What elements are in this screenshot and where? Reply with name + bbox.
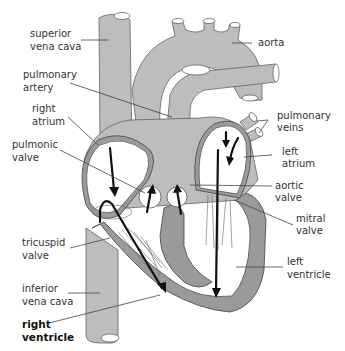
label-tricuspid-valve: tricuspid valve (22, 237, 65, 261)
mitral-valve-cords (206, 195, 232, 250)
label-text: ventricle (287, 269, 331, 280)
label-inferior-vena-cava: inferior vena cava (22, 283, 73, 307)
label-text: veins (277, 122, 303, 133)
label-pulmonary-artery: pulmonary artery (23, 69, 77, 93)
label-mitral-valve: mitral valve (296, 213, 325, 236)
label-text: vena cava (30, 41, 81, 52)
label-text: valve (12, 152, 39, 163)
label-left-atrium: left atrium (282, 146, 315, 169)
label-text: left (282, 146, 298, 157)
label-text: right (32, 103, 56, 114)
label-text: atrium (282, 158, 315, 169)
label-text: aortic (275, 180, 304, 191)
heart-diagram: superior vena cava aorta pulmonary arter… (0, 0, 345, 351)
label-text: pulmonic (12, 139, 58, 150)
label-superior-vena-cava: superior vena cava (30, 28, 81, 52)
label-text: pulmonary (277, 110, 331, 121)
label-text: right (22, 318, 51, 330)
label-text: ventricle (22, 331, 74, 343)
label-pulmonic-valve: pulmonic valve (12, 139, 58, 163)
label-text: valve (296, 225, 323, 236)
label-aortic-valve: aortic valve (275, 180, 304, 203)
label-text: artery (23, 82, 53, 93)
inferior-vena-cava (86, 228, 119, 343)
label-aorta: aorta (258, 37, 284, 48)
label-text: vena cava (22, 296, 73, 307)
label-right-ventricle: right ventricle (22, 318, 74, 343)
label-text: valve (22, 250, 49, 261)
label-text: superior (30, 28, 72, 39)
label-text: pulmonary (23, 69, 77, 80)
label-text: tricuspid (22, 237, 65, 248)
label-text: inferior (22, 283, 59, 294)
label-text: left (287, 256, 303, 267)
label-right-atrium: right atrium (32, 103, 65, 127)
label-text: mitral (296, 213, 325, 224)
label-pulmonary-veins: pulmonary veins (277, 110, 331, 133)
label-text: aorta (258, 37, 284, 48)
label-text: atrium (32, 116, 65, 127)
label-left-ventricle: left ventricle (287, 256, 331, 280)
label-text: valve (275, 192, 302, 203)
